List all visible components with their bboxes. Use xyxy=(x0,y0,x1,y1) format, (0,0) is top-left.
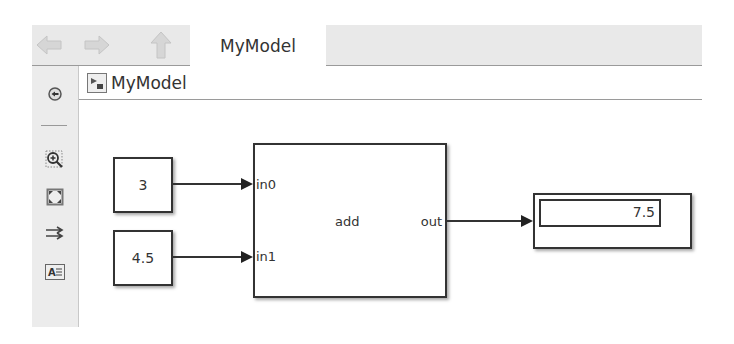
annotation-button[interactable]: A xyxy=(32,258,78,286)
port-in0: in0 xyxy=(256,177,276,192)
signal-line-out[interactable] xyxy=(447,220,521,222)
arrowhead-icon xyxy=(521,215,533,227)
tab-mymodel[interactable]: MyModel xyxy=(190,25,326,66)
collapse-circle-icon xyxy=(48,87,62,101)
back-arrow-icon xyxy=(35,34,63,56)
zoom-button[interactable] xyxy=(32,146,78,174)
fit-view-icon xyxy=(46,188,64,206)
forward-arrow-icon xyxy=(83,34,111,56)
up-arrow-icon xyxy=(149,30,173,60)
text-annotation-icon: A xyxy=(45,264,65,280)
add-block[interactable]: in0 in1 add out xyxy=(253,143,447,298)
signal-routing-button[interactable] xyxy=(32,219,78,247)
sidebar: A xyxy=(32,66,79,327)
add-block-label: add xyxy=(335,214,359,229)
breadcrumb: MyModel xyxy=(79,66,702,100)
svg-text:A: A xyxy=(48,267,56,278)
hide-browser-button[interactable] xyxy=(32,80,78,108)
sidebar-separator xyxy=(41,125,67,126)
port-out: out xyxy=(421,214,442,229)
arrowhead-icon xyxy=(241,178,253,190)
fit-to-view-button[interactable] xyxy=(32,183,78,211)
route-arrows-icon xyxy=(45,226,65,240)
toolbar: MyModel xyxy=(32,25,702,66)
forward-button[interactable] xyxy=(82,29,112,61)
display-block[interactable]: 7.5 xyxy=(533,193,692,249)
constant-value: 4.5 xyxy=(115,232,171,284)
diagram-canvas[interactable]: 3 4.5 in0 in1 add out 7.5 xyxy=(79,100,702,327)
zoom-in-icon xyxy=(45,150,65,170)
port-in1: in1 xyxy=(256,249,276,264)
constant-block-4-5[interactable]: 4.5 xyxy=(113,230,173,286)
signal-line-in1[interactable] xyxy=(173,256,241,258)
display-value: 7.5 xyxy=(539,199,661,227)
back-button[interactable] xyxy=(34,29,64,61)
arrowhead-icon xyxy=(241,251,253,263)
constant-value: 3 xyxy=(115,159,171,211)
constant-block-3[interactable]: 3 xyxy=(113,157,173,213)
up-button[interactable] xyxy=(146,29,176,61)
signal-line-in0[interactable] xyxy=(173,183,241,185)
simulink-model-icon xyxy=(87,73,107,93)
breadcrumb-model-link[interactable]: MyModel xyxy=(111,73,187,93)
